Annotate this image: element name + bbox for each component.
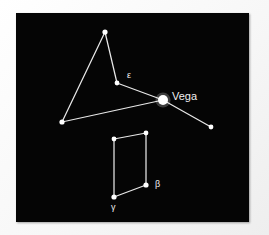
- star-left-vertex[interactable]: [59, 119, 64, 124]
- star-label-gamma: γ: [111, 202, 116, 212]
- star-epsilon[interactable]: [115, 81, 120, 86]
- constellation-svg: εVegaβγ: [16, 13, 249, 222]
- star-apex[interactable]: [102, 29, 107, 34]
- star-labels-group: εVegaβγ: [111, 70, 198, 212]
- star-label-beta: β: [155, 179, 160, 189]
- star-beta[interactable]: [143, 182, 148, 187]
- constellation-line-apex-to-epsilon: [105, 32, 117, 83]
- star-chart-plate: εVegaβγ: [16, 13, 249, 222]
- constellation-line-quad-top-left-to-quad-top-right: [114, 133, 146, 139]
- constellation-line-apex-to-left-vertex: [62, 32, 105, 122]
- star-quad-top-left[interactable]: [112, 137, 117, 142]
- star-gamma[interactable]: [111, 194, 116, 199]
- star-label-epsilon: ε: [127, 70, 131, 80]
- star-quad-top-right[interactable]: [144, 131, 149, 136]
- star-label-vega: Vega: [172, 90, 198, 102]
- stars-group: [59, 29, 213, 199]
- page-canvas: εVegaβγ: [0, 0, 269, 235]
- constellation-line-vega-to-east-star: [163, 100, 211, 127]
- constellation-line-left-vertex-to-vega: [62, 100, 163, 122]
- star-vega[interactable]: [158, 95, 168, 105]
- constellation-lines-group: [62, 32, 211, 197]
- constellation-line-beta-to-gamma: [114, 185, 146, 197]
- star-east-star[interactable]: [209, 125, 214, 130]
